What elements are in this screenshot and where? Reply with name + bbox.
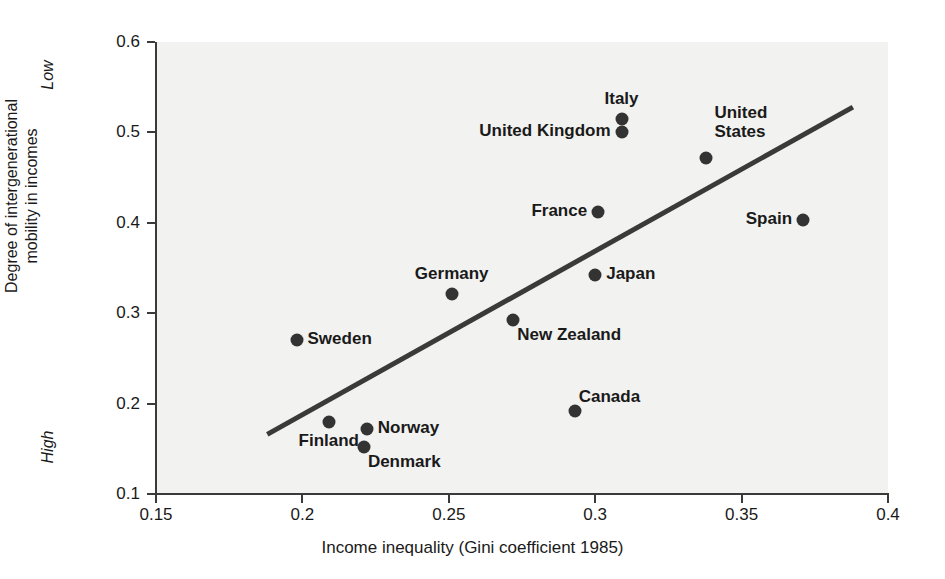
- data-point: [615, 126, 628, 139]
- data-point-label-line2: States: [714, 122, 767, 141]
- x-tick-label: 0.35: [725, 505, 758, 525]
- data-point-label: France: [531, 201, 587, 220]
- x-axis-title: Income inequality (Gini coefficient 1985…: [0, 538, 945, 558]
- data-point-label: Italy: [605, 89, 639, 108]
- y-axis-line: [155, 42, 157, 495]
- data-point: [445, 288, 458, 301]
- y-tick-mark: [147, 222, 155, 224]
- y-tick-mark: [147, 131, 155, 133]
- plot-area: [156, 42, 888, 494]
- x-tick-mark: [155, 495, 157, 503]
- data-point-label: Japan: [606, 265, 655, 284]
- low-annotation: Low: [39, 45, 57, 105]
- x-tick-mark: [741, 495, 743, 503]
- y-axis-title-line1: Degree of intergenerational: [2, 46, 22, 346]
- data-point-label: Germany: [415, 264, 489, 283]
- data-point-label: Canada: [579, 387, 640, 406]
- scatter-plot-figure: 0.10.20.30.40.50.6 0.150.20.250.30.350.4…: [0, 0, 945, 579]
- x-tick-label: 0.15: [139, 505, 172, 525]
- x-tick-label: 0.2: [291, 505, 315, 525]
- y-tick-mark: [147, 493, 155, 495]
- high-annotation: High: [39, 417, 57, 477]
- x-tick-label: 0.4: [876, 505, 900, 525]
- x-axis-line: [155, 493, 889, 495]
- data-point-label: Finland: [299, 431, 359, 450]
- data-point: [290, 334, 303, 347]
- y-tick-label: 0.1: [0, 484, 140, 504]
- x-tick-mark: [448, 495, 450, 503]
- data-point: [322, 415, 335, 428]
- y-tick-mark: [147, 312, 155, 314]
- data-point-label: UnitedStates: [714, 103, 767, 141]
- data-point: [360, 422, 373, 435]
- data-point: [589, 269, 602, 282]
- x-tick-mark: [301, 495, 303, 503]
- y-tick-mark: [147, 41, 155, 43]
- data-point-label: Spain: [746, 210, 792, 229]
- data-point-label: United Kingdom: [479, 122, 610, 141]
- data-point: [797, 214, 810, 227]
- data-point: [615, 112, 628, 125]
- x-tick-mark: [594, 495, 596, 503]
- x-tick-label: 0.3: [583, 505, 607, 525]
- x-tick-label: 0.25: [432, 505, 465, 525]
- data-point-label: New Zealand: [517, 325, 621, 344]
- data-point: [700, 151, 713, 164]
- y-axis-title: Degree of intergenerational mobility in …: [2, 46, 42, 346]
- data-point-label-line1: United: [714, 103, 767, 122]
- y-tick-label: 0.2: [0, 394, 140, 414]
- data-point: [592, 205, 605, 218]
- data-point-label: Norway: [378, 418, 439, 437]
- data-point-label: Sweden: [308, 330, 372, 349]
- data-point-label: Denmark: [368, 452, 441, 471]
- x-tick-mark: [887, 495, 889, 503]
- y-tick-mark: [147, 403, 155, 405]
